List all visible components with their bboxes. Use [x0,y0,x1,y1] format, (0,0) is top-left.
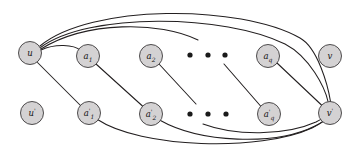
graph-node-a2p[interactable]: a'2 [140,103,163,126]
top-ellipsis-dot-2 [205,52,210,57]
node-circle-a2 [140,45,163,68]
nodes-layer: ua1a2aqvu'a'1a'2a'qv' [19,42,342,126]
top-ellipsis-dot-1 [187,52,192,57]
node-circle-u [19,42,42,65]
graph-figure: ua1a2aqvu'a'1a'2a'qv' [0,0,357,160]
graph-node-aqp[interactable]: a'q [258,103,281,126]
graph-node-v[interactable]: v [319,45,342,68]
graph-edge-a1p-arc [98,116,330,144]
ellipsis-dots-layer [187,52,228,116]
graph-edge-a1-to-a2p [96,64,143,107]
bottom-ellipsis-dot-3 [223,111,228,116]
graph-edge-a2-to-dots [159,64,196,104]
graph-node-aq[interactable]: aq [257,45,280,68]
graph-edge-dots-to-aqp [224,64,261,107]
node-circle-up [21,102,44,125]
bottom-ellipsis-dot-2 [205,111,210,116]
graph-node-a1p[interactable]: a'1 [78,102,101,125]
graph-edge-aq-to-vp [277,63,322,106]
edges-layer [38,13,332,143]
graph-node-vp[interactable]: v' [319,102,342,125]
graph-node-a1[interactable]: a1 [77,45,100,68]
node-circle-a2p [140,103,163,126]
node-circle-vp [319,102,342,125]
graph-edge-u-to-a1p [38,63,82,107]
top-ellipsis-dot-3 [222,52,227,57]
bottom-ellipsis-dot-1 [187,111,192,116]
graph-node-a2[interactable]: a2 [140,45,163,68]
graph-node-u[interactable]: u [19,42,42,65]
node-circle-aq [257,45,280,68]
node-circle-a1p [78,102,101,125]
graph-edge-u-to-a1 [41,46,81,51]
graph-node-up[interactable]: u' [21,102,44,125]
node-circle-a1 [77,45,100,68]
graph-canvas: ua1a2aqvu'a'1a'2a'qv' [0,0,357,160]
node-circle-aqp [258,103,281,126]
node-circle-v [319,45,342,68]
